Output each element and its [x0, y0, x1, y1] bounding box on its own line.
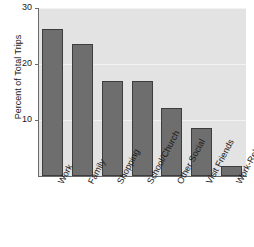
- gridline-30: [38, 8, 246, 9]
- y-tick-label: 30: [22, 3, 32, 12]
- bar: [72, 44, 93, 176]
- chart-figure: Percent of Total Trips 102030 WorkFamily…: [0, 0, 254, 247]
- y-axis-line: [38, 8, 39, 177]
- y-tick-label: 10: [22, 115, 32, 124]
- gridline-20: [38, 64, 246, 65]
- y-tick-label: 20: [22, 59, 32, 68]
- bar: [42, 29, 63, 176]
- x-axis-tick-labels: WorkFamilyShoppingSchool/ChurchOther Soc…: [38, 177, 247, 247]
- plot-area: [38, 8, 246, 176]
- y-axis-ticks: 102030: [0, 0, 38, 247]
